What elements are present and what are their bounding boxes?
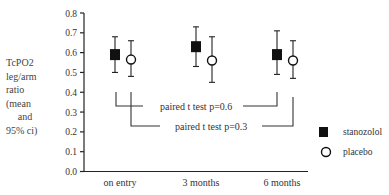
- bracket-stanozolol-right: [243, 92, 277, 106]
- stanozolol-point: [272, 31, 282, 75]
- square-marker-icon: [110, 49, 120, 60]
- x-tick-labels: on entry3 months6 months: [103, 177, 300, 188]
- y-tick-label: 0.8: [65, 9, 77, 19]
- legend-label-stanozolol: stanozolol: [343, 127, 382, 137]
- x-tick-label: on entry: [103, 177, 136, 188]
- legend-circle-icon: [322, 148, 331, 157]
- y-tick-label: 0.2: [65, 127, 77, 137]
- y-tick-label: 0.3: [65, 108, 77, 118]
- y-tick-label: 0.4: [65, 88, 77, 98]
- circle-marker-icon: [289, 56, 298, 65]
- legend-square-icon: [319, 127, 328, 137]
- stanozolol-point: [110, 37, 120, 73]
- y-tick-label: 0.1: [65, 147, 77, 157]
- y-tick-label: 0.6: [65, 48, 77, 58]
- legend: stanozolol placebo: [319, 127, 382, 157]
- bracket-placebo-left: [131, 92, 160, 126]
- chart-canvas: 0.00.10.20.30.40.50.60.70.8 on entry3 mo…: [0, 0, 389, 195]
- data-points: [110, 27, 298, 82]
- bracket-stanozolol-left: [116, 92, 143, 106]
- placebo-point: [127, 41, 136, 77]
- y-tick-label: 0.7: [65, 28, 77, 38]
- circle-marker-icon: [127, 55, 136, 64]
- placebo-point: [208, 37, 217, 83]
- legend-label-placebo: placebo: [343, 147, 373, 157]
- placebo-point: [289, 41, 298, 79]
- y-tick-labels: 0.00.10.20.30.40.50.60.70.8: [65, 9, 77, 178]
- y-tick-label: 0.0: [65, 167, 77, 177]
- square-marker-icon: [272, 49, 282, 60]
- annotation-p06: paired t test p=0.6: [160, 101, 232, 112]
- circle-marker-icon: [208, 56, 217, 65]
- y-tick-label: 0.5: [65, 68, 77, 78]
- square-marker-icon: [191, 41, 201, 52]
- x-tick-label: 3 months: [183, 177, 220, 188]
- stanozolol-point: [191, 27, 201, 67]
- x-tick-label: 6 months: [264, 177, 301, 188]
- annotation-p03: paired t test p=0.3: [175, 121, 247, 132]
